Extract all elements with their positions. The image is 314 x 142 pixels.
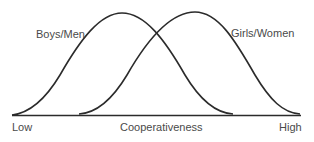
axis-label-low: Low [12,121,32,133]
cooperativeness-distribution-figure: Boys/Men Girls/Women Low Cooperativeness… [0,0,314,142]
series-label-boys-men: Boys/Men [36,28,85,40]
x-axis-title: Cooperativeness [120,121,203,133]
axis-label-high: High [279,121,302,133]
series-label-girls-women: Girls/Women [231,27,294,39]
